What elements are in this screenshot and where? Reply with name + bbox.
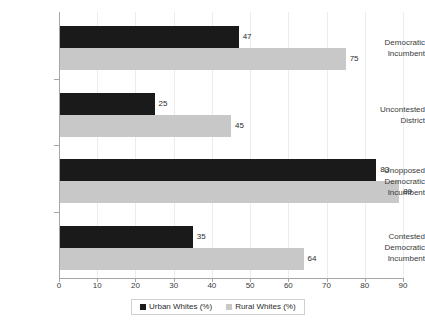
bar-rural <box>59 48 346 70</box>
x-axis-line <box>59 278 404 279</box>
bar-value-label: 47 <box>243 32 252 42</box>
bar-rural <box>59 115 231 137</box>
category-label-line: Unopposed <box>369 165 425 176</box>
x-axis-tick-label: 10 <box>93 281 102 291</box>
x-axis-tick-label: 50 <box>246 281 255 291</box>
category-label: ContestedDemocraticIncumbent <box>369 231 425 264</box>
gridline <box>365 12 366 278</box>
category-label-line: District <box>369 115 425 126</box>
x-axis-tick-label: 60 <box>284 281 293 291</box>
x-axis-tick-label: 70 <box>322 281 331 291</box>
x-axis-tick-label: 30 <box>169 281 178 291</box>
category-label-line: Democratic <box>369 242 425 253</box>
y-axis-tick <box>54 212 59 213</box>
y-axis-tick <box>54 79 59 80</box>
x-axis-tick-label: 0 <box>57 281 61 291</box>
bar-chart: 4775254583893564 DemocraticIncumbentUnco… <box>0 0 425 322</box>
bar-value-label: 64 <box>308 254 317 264</box>
bar-value-label: 35 <box>197 232 206 242</box>
category-label-line: Contested <box>369 231 425 242</box>
bar-value-label: 25 <box>159 99 168 109</box>
y-axis-tick <box>54 145 59 146</box>
legend-label: Rural Whites (%) <box>235 302 295 312</box>
y-axis-line <box>59 12 60 278</box>
x-axis-tick-label: 90 <box>399 281 408 291</box>
bar-rural <box>59 181 399 203</box>
category-label-line: Democratic <box>369 176 425 187</box>
category-label-line: Incumbent <box>369 253 425 264</box>
legend-item[interactable]: Rural Whites (%) <box>226 302 295 312</box>
plot-area: 4775254583893564 <box>59 12 403 278</box>
category-label: UncontestedDistrict <box>369 104 425 126</box>
x-axis-tick-label: 20 <box>131 281 140 291</box>
bar-urban <box>59 26 239 48</box>
bar-urban <box>59 159 376 181</box>
category-label-line: Incumbent <box>369 48 425 59</box>
chart-legend: Urban Whites (%)Rural Whites (%) <box>131 299 305 315</box>
bar-urban <box>59 226 193 248</box>
category-label-line: Uncontested <box>369 104 425 115</box>
x-axis-tick-label: 80 <box>360 281 369 291</box>
legend-swatch-urban <box>140 304 146 310</box>
bar-value-label: 45 <box>235 121 244 131</box>
x-axis-tick-label: 40 <box>207 281 216 291</box>
bar-value-label: 75 <box>350 54 359 64</box>
category-label-line: Incumbent <box>369 187 425 198</box>
bar-rural <box>59 248 304 270</box>
bar-urban <box>59 93 155 115</box>
category-label: DemocraticIncumbent <box>369 37 425 59</box>
category-label: UnopposedDemocraticIncumbent <box>369 165 425 198</box>
legend-item[interactable]: Urban Whites (%) <box>140 302 212 312</box>
category-label-line: Democratic <box>369 37 425 48</box>
legend-label: Urban Whites (%) <box>149 302 212 312</box>
legend-swatch-rural <box>226 304 232 310</box>
